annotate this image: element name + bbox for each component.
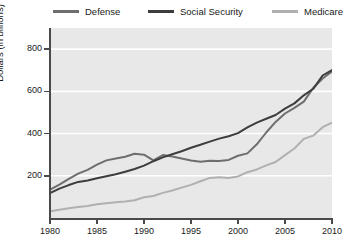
legend-item-medicare: Medicare <box>272 6 343 17</box>
x-tick-mark <box>96 218 98 224</box>
legend-label-medicare: Medicare <box>304 6 343 17</box>
y-axis-line <box>49 28 51 219</box>
x-tick-mark <box>237 218 239 224</box>
legend-item-social-security: Social Security <box>148 6 243 17</box>
x-tick-label: 1995 <box>181 226 201 236</box>
y-tick-mark <box>44 48 49 50</box>
legend-item-defense: Defense <box>53 6 120 17</box>
x-tick-mark <box>284 218 286 224</box>
chart-legend: Defense Social Security Medicare <box>0 0 344 26</box>
x-tick-label: 2000 <box>228 226 248 236</box>
y-tick-label: 800 <box>27 43 42 53</box>
x-tick-label: 1980 <box>40 226 60 236</box>
plot-area <box>50 28 332 218</box>
y-tick-label: 200 <box>27 170 42 180</box>
x-tick-mark <box>143 218 145 224</box>
y-axis-title: Dollars (in billions) <box>0 0 5 123</box>
x-tick-mark <box>49 218 51 224</box>
y-tick-mark <box>44 133 49 135</box>
legend-label-social-security: Social Security <box>180 6 243 17</box>
legend-swatch-social-security <box>148 10 174 13</box>
x-tick-label: 2010 <box>322 226 342 236</box>
x-tick-label: 1990 <box>134 226 154 236</box>
x-tick-label: 1985 <box>87 226 107 236</box>
y-tick-mark <box>44 175 49 177</box>
y-tick-label: 400 <box>27 128 42 138</box>
line-chart: Defense Social Security Medicare 2004006… <box>0 0 344 246</box>
data-series-group <box>50 28 332 218</box>
x-tick-label: 2005 <box>275 226 295 236</box>
legend-swatch-medicare <box>272 10 298 13</box>
legend-label-defense: Defense <box>85 6 120 17</box>
y-tick-mark <box>44 91 49 93</box>
legend-swatch-defense <box>53 10 79 13</box>
y-tick-label: 600 <box>27 85 42 95</box>
x-tick-mark <box>331 218 333 224</box>
x-tick-mark <box>190 218 192 224</box>
